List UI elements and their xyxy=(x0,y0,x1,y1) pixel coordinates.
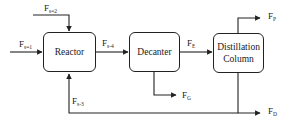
reactor-unit: Reactor xyxy=(43,32,96,72)
stream-label-s4: Fs-4 xyxy=(102,38,114,51)
distillation-column-label: Distillation Column xyxy=(216,41,261,65)
stream-s2-arrow xyxy=(33,15,69,31)
stream-label-s2: Fs=2 xyxy=(44,3,57,16)
stream-label-s3: Fs-3 xyxy=(72,96,84,109)
stream-label-g: FG xyxy=(182,90,191,103)
stream-label-e: FE xyxy=(187,38,195,51)
stream-label-p: FP xyxy=(268,11,276,24)
stream-g-arrow xyxy=(154,72,176,95)
reactor-label: Reactor xyxy=(55,46,85,58)
distillation-column-unit: Distillation Column xyxy=(213,33,264,73)
decanter-unit: Decanter xyxy=(129,32,180,72)
decanter-label: Decanter xyxy=(137,46,171,58)
stream-label-d: FD xyxy=(268,106,277,119)
stream-label-s1: Fs=1 xyxy=(19,39,32,52)
stream-p-arrow xyxy=(238,18,260,33)
stream-d-arrow xyxy=(238,72,260,113)
